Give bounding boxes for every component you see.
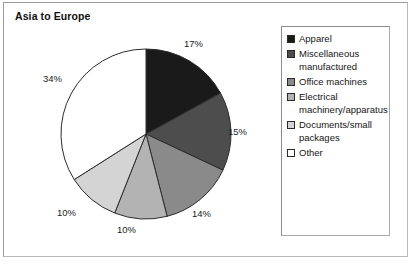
legend-item-label: Documents/small packages <box>299 118 372 144</box>
legend-swatch-icon <box>287 149 295 157</box>
legend-item[interactable]: Apparel <box>287 32 415 45</box>
pie-label-electrical-machinery: 10% <box>117 224 136 235</box>
legend-item-label: Miscellaneous manufactured <box>299 47 359 73</box>
pie-svg <box>60 48 232 220</box>
legend-swatch-icon <box>287 35 295 43</box>
legend: ApparelMiscellaneous manufacturedOffice … <box>287 32 415 161</box>
legend-item[interactable]: Documents/small packages <box>287 118 415 144</box>
legend-item[interactable]: Electrical machinery/apparatus <box>287 90 415 116</box>
pie-label-other: 34% <box>43 73 62 84</box>
legend-swatch-icon <box>287 93 295 101</box>
legend-swatch-icon <box>287 78 295 86</box>
legend-item-label: Office machines <box>299 75 367 88</box>
pie-label-documents-small-packages: 10% <box>57 207 76 218</box>
pie-chart-figure: Asia to Europe 17% 15% 14% 10% 10% 34% A… <box>0 0 418 265</box>
chart-title: Asia to Europe <box>15 10 91 22</box>
legend-item[interactable]: Miscellaneous manufactured <box>287 47 415 73</box>
legend-item[interactable]: Office machines <box>287 75 415 88</box>
legend-item[interactable]: Other <box>287 146 415 159</box>
legend-item-label: Electrical machinery/apparatus <box>299 90 388 116</box>
pie-label-office-machines: 14% <box>192 208 211 219</box>
legend-swatch-icon <box>287 121 295 129</box>
pie-chart <box>60 48 232 220</box>
pie-label-miscellaneous-manufactured: 15% <box>228 126 247 137</box>
legend-item-label: Other <box>299 146 323 159</box>
legend-swatch-icon <box>287 50 295 58</box>
legend-item-label: Apparel <box>299 32 332 45</box>
pie-label-apparel: 17% <box>184 38 203 49</box>
